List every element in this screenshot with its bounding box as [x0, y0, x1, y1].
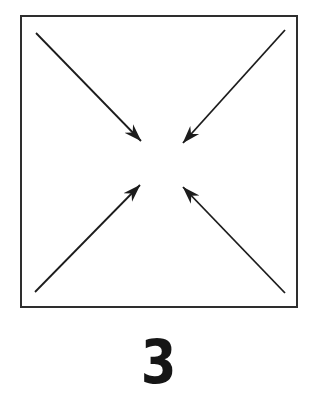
step-number-label: 3: [25, 331, 291, 392]
diagram-canvas: [0, 0, 317, 330]
arrow-from-top-right: [183, 30, 285, 143]
page: 3: [0, 0, 317, 397]
arrow-from-bottom-left: [35, 185, 140, 292]
arrow-from-top-left: [36, 33, 141, 141]
arrow-from-bottom-right: [183, 187, 285, 293]
